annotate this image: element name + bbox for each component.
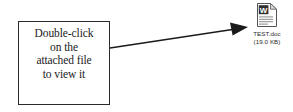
- word-document-icon[interactable]: W: [255, 2, 279, 28]
- attached-file-name: TEST.doc: [243, 30, 291, 38]
- document-text-line: [259, 16, 273, 17]
- attached-file[interactable]: W TEST.doc (19.0 KB): [243, 2, 291, 46]
- word-emblem-letter: W: [260, 6, 268, 15]
- diagram-canvas: Double-click on the attached file to vie…: [0, 0, 293, 112]
- document-text-line: [259, 24, 268, 25]
- word-document-icon-glyph: W: [255, 2, 279, 28]
- document-fold-corner: [271, 4, 277, 10]
- document-text-line: [259, 19, 273, 20]
- document-text-line: [259, 21, 273, 22]
- attached-file-labels: TEST.doc (19.0 KB): [243, 30, 291, 46]
- attached-file-size: (19.0 KB): [243, 38, 291, 46]
- arrow-shaft: [110, 29, 234, 48]
